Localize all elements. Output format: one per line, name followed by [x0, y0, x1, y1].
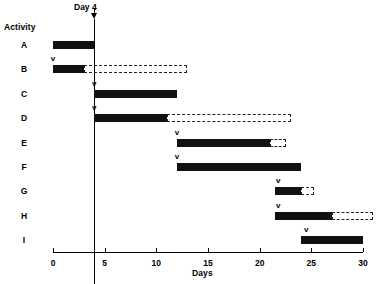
row-label-i: I — [10, 235, 38, 245]
row-label-d: D — [10, 113, 38, 123]
y-axis-title: Activity — [4, 22, 36, 32]
start-marker-e: v — [175, 129, 179, 137]
row-label-a: A — [10, 40, 38, 50]
x-tick-0 — [53, 248, 54, 252]
bar-duration-c — [94, 90, 177, 98]
x-tick-10 — [156, 248, 157, 252]
bar-float-d — [167, 114, 291, 122]
x-tick-15 — [208, 248, 209, 252]
day-marker-label: Day 4 — [74, 2, 97, 12]
start-marker-b: v — [51, 55, 55, 63]
x-tick-25 — [311, 248, 312, 252]
bar-duration-e — [177, 139, 270, 147]
x-axis-title: Days — [192, 268, 213, 278]
bar-float-e — [270, 139, 286, 147]
x-tick-label-30: 30 — [358, 258, 367, 268]
x-tick-label-5: 5 — [102, 258, 107, 268]
gantt-chart: Activity Days Day 4 ABCDEFGHI vvvvvvvv 0… — [0, 0, 380, 284]
bar-float-b — [84, 65, 187, 73]
bar-float-g — [301, 187, 314, 195]
start-marker-d: v — [92, 104, 96, 112]
start-marker-g: v — [276, 177, 280, 185]
x-tick-label-0: 0 — [51, 258, 56, 268]
x-tick-label-25: 25 — [307, 258, 316, 268]
bar-duration-f — [177, 163, 301, 171]
row-label-h: H — [10, 211, 38, 221]
bar-duration-d — [94, 114, 166, 122]
x-tick-30 — [363, 248, 364, 252]
bar-duration-a — [53, 41, 94, 49]
row-label-b: B — [10, 64, 38, 74]
row-label-c: C — [10, 89, 38, 99]
row-label-e: E — [10, 138, 38, 148]
x-tick-label-15: 15 — [203, 258, 212, 268]
x-tick-label-10: 10 — [152, 258, 161, 268]
bar-float-h — [332, 212, 373, 220]
x-tick-label-20: 20 — [255, 258, 264, 268]
start-marker-c: v — [92, 80, 96, 88]
bar-duration-b — [53, 65, 84, 73]
row-label-g: G — [10, 186, 38, 196]
start-marker-h: v — [276, 202, 280, 210]
start-marker-f: v — [175, 153, 179, 161]
start-marker-i: v — [304, 226, 308, 234]
bar-duration-i — [301, 236, 363, 244]
x-axis-line — [53, 252, 363, 253]
x-tick-20 — [260, 248, 261, 252]
day-marker-line — [94, 19, 95, 284]
bar-duration-g — [275, 187, 301, 195]
x-tick-5 — [105, 248, 106, 252]
bar-duration-h — [275, 212, 332, 220]
row-label-f: F — [10, 162, 38, 172]
